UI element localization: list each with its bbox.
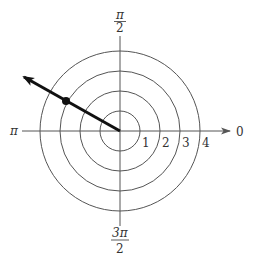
label-angle-pi: π: [9, 124, 19, 138]
label-radius-4: 4: [202, 136, 210, 150]
svg-text:π: π: [115, 8, 125, 22]
ray-5pi-6: [24, 77, 120, 131]
label-radius-3: 3: [182, 136, 190, 150]
label-radius-2: 2: [162, 136, 170, 150]
polar-diagram: 0 π 2 π 3π 2 1 2 3 4: [0, 0, 255, 264]
svg-text:3π: 3π: [112, 226, 129, 240]
label-angle-3pi-over-2: 3π 2: [111, 226, 129, 256]
label-radius-1: 1: [142, 136, 150, 150]
label-angle-0: 0: [236, 125, 244, 139]
label-angle-pi-over-2: π 2: [114, 8, 126, 35]
svg-text:2: 2: [116, 21, 124, 35]
point-r3-5pi6: [62, 97, 70, 105]
svg-text:2: 2: [116, 242, 124, 256]
